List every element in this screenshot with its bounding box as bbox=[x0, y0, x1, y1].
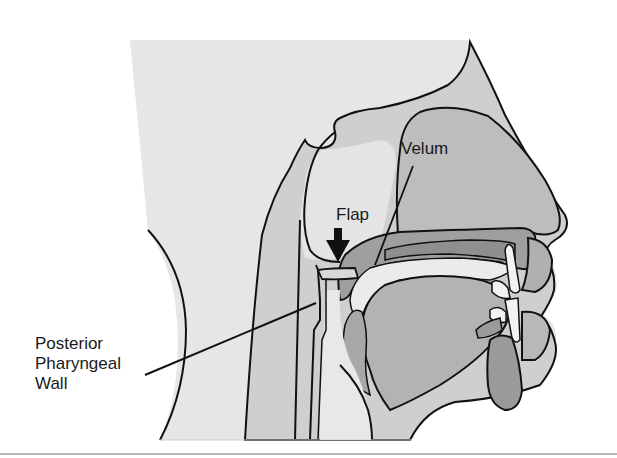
label-flap: Flap bbox=[336, 205, 369, 225]
label-ppw-line-3: Wall bbox=[35, 374, 121, 394]
label-velum: Velum bbox=[401, 139, 448, 159]
label-ppw-line-1: Posterior bbox=[35, 334, 121, 354]
page-bottom-rule bbox=[0, 453, 617, 455]
pharyngeal-flap bbox=[318, 268, 358, 279]
label-posterior-pharyngeal-wall: Posterior Pharyngeal Wall bbox=[35, 334, 121, 394]
label-ppw-line-2: Pharyngeal bbox=[35, 354, 121, 374]
nasal-cavity bbox=[397, 108, 560, 235]
